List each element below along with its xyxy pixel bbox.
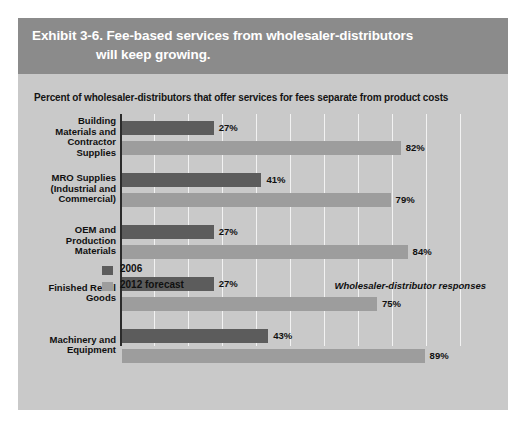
legend-label: 2006 <box>120 263 142 274</box>
bar-row: 27% <box>122 225 494 239</box>
category-label-line: Contractor <box>34 137 116 148</box>
bar-value-label: 41% <box>266 174 285 185</box>
bar-chart: BuildingMaterials andContractorSuppliesM… <box>34 114 492 346</box>
exhibit-panel: Exhibit 3-6. Fee-based services from who… <box>18 18 508 410</box>
legend-item: 2006 <box>102 263 302 277</box>
category-label: BuildingMaterials andContractorSupplies <box>34 116 116 158</box>
category-label: OEM andProductionMaterials <box>34 225 116 257</box>
bar-value-label: 27% <box>219 122 238 133</box>
bar-row: 27% <box>122 121 494 135</box>
bar-2006 <box>122 173 261 187</box>
bar-value-label: 43% <box>273 330 292 341</box>
category-label: Machinery andEquipment <box>34 335 116 356</box>
category-axis-labels: BuildingMaterials andContractorSuppliesM… <box>34 114 116 346</box>
bar-2012-forecast <box>122 297 377 311</box>
category-label-line: Supplies <box>34 148 116 159</box>
chart-legend: 20062012 forecast <box>102 263 302 295</box>
source-note: Wholesaler-distributor responses <box>334 280 486 291</box>
bar-row: 79% <box>122 193 494 207</box>
category-label-line: Equipment <box>34 345 116 356</box>
category-label-line: Commercial) <box>34 194 116 205</box>
bar-2006 <box>122 121 214 135</box>
bar-value-label: 75% <box>382 298 401 309</box>
bar-2012-forecast <box>122 349 425 363</box>
bar-row: 84% <box>122 245 494 259</box>
exhibit-title: Exhibit 3-6. Fee-based services from who… <box>32 26 494 64</box>
bar-row: 75% <box>122 297 494 311</box>
category-label-line: Building <box>34 116 116 127</box>
bar-value-label: 84% <box>413 246 432 257</box>
bar-row: 82% <box>122 141 494 155</box>
category-label: MRO Supplies(Industrial andCommercial) <box>34 173 116 205</box>
legend-swatch <box>102 282 113 291</box>
bar-value-label: 27% <box>219 226 238 237</box>
chart-subtitle: Percent of wholesaler-distributors that … <box>34 92 448 103</box>
bar-2012-forecast <box>122 245 408 259</box>
exhibit-header-band: Exhibit 3-6. Fee-based services from who… <box>18 18 508 74</box>
bar-row: 43% <box>122 329 494 343</box>
bar-2006 <box>122 329 268 343</box>
plot-area: 27%82%41%79%27%84%27%75%43%89% <box>120 114 492 346</box>
category-label-line: Materials <box>34 246 116 257</box>
bar-value-label: 79% <box>396 194 415 205</box>
legend-label: 2012 forecast <box>120 279 184 290</box>
bar-value-label: 89% <box>430 350 449 361</box>
bar-2012-forecast <box>122 141 401 155</box>
exhibit-title-line-1: Exhibit 3-6. Fee-based services from who… <box>32 28 413 43</box>
bar-row: 41% <box>122 173 494 187</box>
legend-item: 2012 forecast <box>102 279 302 293</box>
bar-2012-forecast <box>122 193 391 207</box>
bar-row: 89% <box>122 349 494 363</box>
bar-2006 <box>122 225 214 239</box>
bar-value-label: 82% <box>406 142 425 153</box>
legend-swatch <box>102 266 113 275</box>
exhibit-title-line-2: will keep growing. <box>32 45 494 64</box>
